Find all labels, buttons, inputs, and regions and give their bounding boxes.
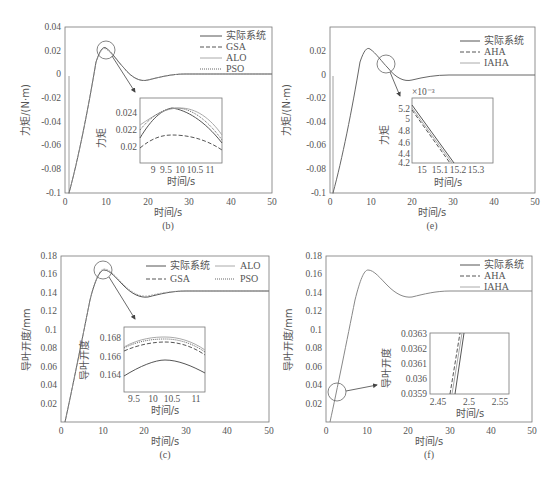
svg-text:-0.04: -0.04 [41, 117, 61, 127]
svg-text:GSA: GSA [226, 41, 247, 52]
svg-text:9.5: 9.5 [160, 165, 172, 175]
svg-text:时间/s: 时间/s [456, 407, 485, 419]
caption: (f) [424, 449, 434, 461]
svg-text:导叶开度: 导叶开度 [380, 348, 392, 388]
svg-text:15.1: 15.1 [432, 165, 449, 175]
svg-text:实际系统: 实际系统 [226, 29, 266, 41]
y-ticks: 0.18 0.16 0.14 0.12 0.1 0.08 0.06 0.04 0… [40, 251, 57, 409]
svg-text:30: 30 [448, 197, 458, 207]
svg-text:0.1: 0.1 [310, 325, 322, 335]
svg-text:4.2: 4.2 [398, 158, 410, 168]
zoom-circle [377, 55, 395, 73]
svg-text:0: 0 [321, 70, 326, 80]
svg-text:0.1: 0.1 [45, 325, 57, 335]
svg-text:20: 20 [403, 426, 413, 436]
svg-text:0.08: 0.08 [305, 343, 322, 353]
svg-text:0.0363: 0.0363 [401, 329, 427, 339]
svg-text:IAHA: IAHA [484, 57, 510, 68]
svg-text:IAHA: IAHA [484, 281, 510, 292]
figure: 0.04 0.02 0 -0.02 -0.04 -0.06 -0.08 -0.1… [0, 0, 558, 479]
x-axis-label: 时间/s [151, 435, 180, 447]
inset-c: 0.168 0.166 0.164 9.5 10 10.5 11 时间/s 导叶… [78, 327, 205, 416]
svg-text:40: 40 [489, 197, 499, 207]
svg-text:10: 10 [175, 165, 185, 175]
svg-text:0.18: 0.18 [40, 251, 57, 261]
svg-text:导叶开度: 导叶开度 [78, 340, 90, 380]
svg-text:0.14: 0.14 [305, 288, 322, 298]
svg-text:实际系统: 实际系统 [170, 259, 210, 271]
svg-text:0.04: 0.04 [305, 380, 322, 390]
svg-text:30: 30 [181, 426, 191, 436]
svg-text:0.16: 0.16 [305, 269, 322, 279]
svg-text:10: 10 [101, 197, 111, 207]
svg-text:时间/s: 时间/s [434, 176, 463, 188]
svg-text:5.2: 5.2 [398, 104, 410, 114]
svg-text:力矩: 力矩 [95, 128, 107, 148]
svg-text:40: 40 [486, 426, 496, 436]
svg-text:时间/s: 时间/s [167, 175, 196, 187]
svg-text:0.02: 0.02 [120, 142, 137, 152]
svg-text:30: 30 [445, 426, 455, 436]
svg-text:20: 20 [143, 197, 153, 207]
svg-text:2.55: 2.55 [492, 397, 509, 407]
svg-text:-0.02: -0.02 [41, 93, 61, 103]
svg-text:10.5: 10.5 [164, 394, 181, 404]
svg-text:10: 10 [362, 426, 372, 436]
svg-text:10: 10 [366, 197, 376, 207]
svg-text:AHA: AHA [484, 46, 506, 57]
svg-text:0.024: 0.024 [116, 108, 138, 118]
svg-text:-0.06: -0.06 [41, 140, 61, 150]
x-axis-label: 时间/s [415, 435, 444, 447]
svg-text:4.6: 4.6 [398, 138, 410, 148]
svg-text:0.02: 0.02 [44, 46, 61, 56]
svg-text:0.16: 0.16 [40, 269, 57, 279]
svg-text:50: 50 [267, 197, 277, 207]
svg-text:40: 40 [226, 197, 236, 207]
x-ticks: 0 10 20 30 40 50 [59, 426, 274, 436]
inset-f: 0.0363 0.0362 0.0361 0.036 0.0359 2.45 2… [380, 329, 509, 419]
svg-text:15.2: 15.2 [450, 165, 467, 175]
svg-text:0.0359: 0.0359 [401, 389, 427, 399]
svg-text:0.04: 0.04 [40, 380, 57, 390]
svg-text:0.02: 0.02 [305, 399, 322, 409]
svg-text:时间/s: 时间/s [151, 404, 180, 416]
svg-text:10: 10 [98, 426, 108, 436]
svg-text:0.022: 0.022 [116, 125, 138, 135]
svg-text:0.02: 0.02 [309, 46, 326, 56]
chart-f: 0.18 0.16 0.14 0.12 0.1 0.08 0.06 0.04 0… [282, 251, 537, 461]
svg-text:-0.04: -0.04 [306, 117, 326, 127]
svg-text:11: 11 [191, 394, 200, 404]
svg-text:实际系统: 实际系统 [484, 258, 524, 270]
svg-text:-0.08: -0.08 [41, 164, 61, 174]
y-ticks: 0.18 0.16 0.14 0.12 0.1 0.08 0.06 0.04 0… [305, 251, 322, 409]
chart-e: 0.02 0 -0.02 -0.04 -0.06 -0.08 -0.1 0 10… [280, 27, 540, 232]
x-axis-label: 时间/s [154, 206, 183, 218]
svg-text:×10⁻³: ×10⁻³ [412, 87, 435, 97]
svg-text:0.14: 0.14 [40, 288, 57, 298]
svg-text:0: 0 [59, 426, 64, 436]
y-axis-label: 导叶开度/mm [282, 309, 294, 372]
x-ticks: 0 10 20 30 40 50 [63, 197, 277, 207]
caption: (b) [162, 220, 174, 232]
svg-text:0.04: 0.04 [44, 22, 61, 32]
zoom-circle [328, 383, 346, 401]
x-ticks: 0 10 20 30 40 50 [324, 426, 537, 436]
svg-text:10.5: 10.5 [187, 165, 204, 175]
svg-text:PSO: PSO [240, 273, 258, 284]
svg-text:0: 0 [63, 197, 68, 207]
x-ticks: 0 10 20 30 40 50 [328, 197, 540, 207]
svg-text:-0.08: -0.08 [306, 164, 326, 174]
svg-text:0.036: 0.036 [406, 374, 428, 384]
y-axis-label: 力矩/(N·m) [19, 84, 31, 136]
svg-text:0.164: 0.164 [100, 370, 122, 380]
chart-b: 0.04 0.02 0 -0.02 -0.04 -0.06 -0.08 -0.1… [19, 22, 277, 232]
svg-text:11: 11 [205, 165, 214, 175]
svg-text:-0.1: -0.1 [311, 188, 326, 198]
inset-e: ×10⁻³ 5.2 5 4.8 4.6 4.4 4.2 15 15.1 15.2… [378, 87, 493, 188]
legend: 实际系统 GSA ALO PSO [200, 29, 266, 74]
svg-text:40: 40 [222, 426, 232, 436]
svg-text:50: 50 [527, 426, 537, 436]
svg-text:0.0361: 0.0361 [401, 359, 427, 369]
y-ticks: 0.04 0.02 0 -0.02 -0.04 -0.06 -0.08 -0.1 [41, 22, 61, 198]
legend: 实际系统 ALO GSA PSO [146, 259, 261, 284]
